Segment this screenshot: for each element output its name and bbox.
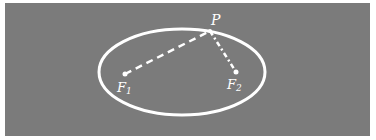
segment-f1-to-p bbox=[125, 31, 210, 74]
focus-point-f1 bbox=[123, 72, 128, 77]
label-f1-subscript: 1 bbox=[126, 86, 132, 96]
label-f1: F1 bbox=[116, 80, 132, 96]
label-f2-subscript: 2 bbox=[235, 83, 242, 93]
ellipse-foci-figure: P F1 F2 bbox=[0, 0, 376, 140]
label-p: P bbox=[210, 12, 221, 28]
focus-point-f2 bbox=[234, 70, 239, 75]
ellipse-diagram: P F1 F2 bbox=[0, 0, 376, 140]
point-p bbox=[208, 29, 212, 33]
label-f2: F2 bbox=[226, 77, 242, 93]
